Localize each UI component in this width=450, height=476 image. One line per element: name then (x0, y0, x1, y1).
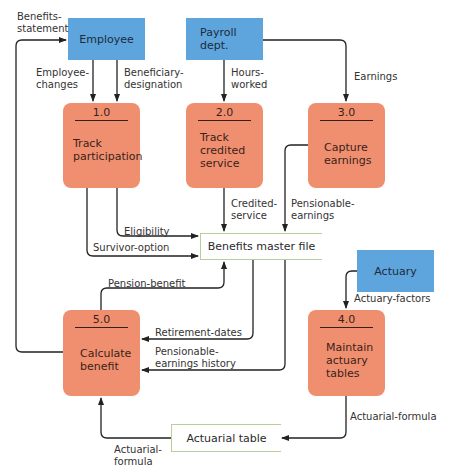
flow-label-actuarial-formula-right: Actuarial-formula (350, 411, 437, 423)
process-number: 2.0 (186, 106, 263, 119)
process-label: Trackparticipation (73, 137, 134, 163)
flow-label-actuarial-formula-left: Actuarial-formula (114, 444, 162, 468)
process-number: 3.0 (308, 106, 385, 119)
store-actuarial-table[interactable]: Actuarial table (171, 424, 281, 452)
process-divider (320, 120, 373, 121)
process-label: Captureearnings (324, 141, 379, 167)
process-divider (75, 327, 128, 328)
process-label: Maintainactuarytables (326, 341, 379, 380)
flow-label-benefits-statement: Benefits-statement (17, 11, 68, 35)
payroll-line-2: dept. (200, 39, 229, 52)
process-number: 4.0 (308, 313, 385, 326)
flow-label-actuary-factors: Actuary-factors (354, 293, 431, 305)
process-divider (75, 120, 128, 121)
flow-label-pension-benefit: Pension-benefit (108, 278, 185, 290)
payroll-line-1: Payroll (200, 26, 237, 39)
process-divider (198, 120, 251, 121)
flow-label-hours-worked: Hours-worked (231, 67, 267, 91)
entity-payroll-dept[interactable]: Payroll dept. (186, 18, 263, 60)
flow-label-retirement-dates: Retirement-dates (155, 327, 242, 339)
process-4-maintain-actuary-tables[interactable]: 4.0 Maintainactuarytables (308, 310, 385, 396)
entity-employee[interactable]: Employee (68, 18, 145, 60)
process-number: 5.0 (63, 313, 140, 326)
flow-label-pensionable-earnings-history: Pensionable-earnings history (155, 346, 236, 370)
flow-label-earnings: Earnings (354, 71, 397, 83)
process-divider (320, 327, 373, 328)
flow-label-credited-service: Credited-service (231, 198, 277, 222)
process-5-calculate-benefit[interactable]: 5.0 Calculatebenefit (63, 310, 140, 396)
entity-actuary[interactable]: Actuary (357, 250, 434, 292)
flow-label-beneficiary-designation: Beneficiary-designation (124, 67, 184, 91)
store-benefits-master-file[interactable]: Benefits master file (200, 233, 322, 260)
store-label: Actuarial table (186, 432, 266, 445)
process-2-track-credited-service[interactable]: 2.0 Trackcreditedservice (186, 103, 263, 188)
flow-label-eligibility: Eligibility (124, 226, 170, 238)
flow-label-pensionable-earnings: Pensionable-earnings (291, 198, 355, 222)
flow-label-survivor-option: Survivor-option (93, 242, 169, 254)
process-label: Calculatebenefit (80, 347, 134, 373)
entity-payroll-label: Payroll dept. (200, 26, 237, 52)
process-3-capture-earnings[interactable]: 3.0 Captureearnings (308, 103, 385, 188)
process-1-track-participation[interactable]: 1.0 Trackparticipation (63, 103, 140, 188)
process-label: Trackcreditedservice (200, 131, 257, 170)
entity-employee-label: Employee (79, 33, 133, 46)
flow-label-employee-changes: Employee-changes (36, 67, 89, 91)
entity-actuary-label: Actuary (374, 265, 416, 278)
process-number: 1.0 (63, 106, 140, 119)
store-label: Benefits master file (208, 240, 316, 253)
